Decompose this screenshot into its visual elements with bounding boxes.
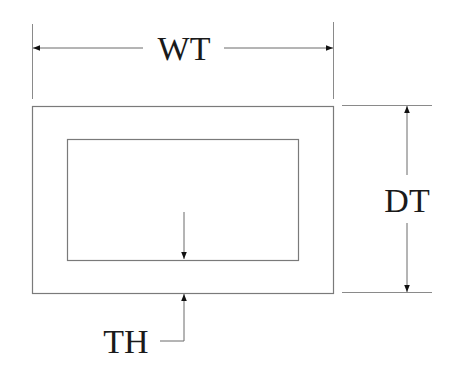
outer-rectangle	[33, 107, 334, 294]
section-diagram: WT DT TH	[0, 0, 452, 370]
thickness-dimension: TH	[103, 212, 184, 360]
width-dimension: WT	[33, 22, 334, 99]
thickness-label: TH	[103, 323, 148, 360]
thickness-leader	[160, 294, 184, 341]
inner-rectangle	[68, 140, 299, 261]
width-label: WT	[158, 30, 211, 67]
depth-dimension: DT	[342, 106, 432, 293]
depth-label: DT	[384, 182, 430, 219]
